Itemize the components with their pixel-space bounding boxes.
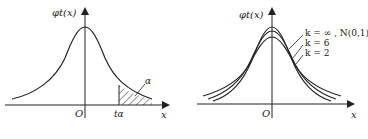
left-origin-label: O [75, 108, 83, 119]
diagram-canvas: φt(x) O x tα α φt(x) O x k = ∞ , N(0,1) … [0, 0, 368, 139]
leader-k-6 [293, 45, 303, 58]
right-x-axis-label: x [351, 109, 357, 120]
left-figure: φt(x) O x tα α [5, 7, 168, 120]
t-alpha-label: tα [114, 109, 124, 119]
left-x-axis-label: x [161, 109, 167, 120]
right-origin-label: O [262, 108, 270, 119]
label-k-2: k = 2 [305, 48, 329, 58]
left-y-axis-label: φt(x) [52, 7, 77, 18]
leader-k-2 [296, 55, 303, 64]
left-density-curve [12, 27, 152, 99]
label-k-infinity: k = ∞ , N(0,1) [305, 28, 368, 38]
label-k-6: k = 6 [305, 38, 330, 48]
leader-k-infinity [289, 35, 303, 49]
alpha-label: α [145, 76, 151, 86]
right-figure: φt(x) O x k = ∞ , N(0,1) k = 6 k = 2 [197, 9, 368, 120]
right-y-axis-label: φt(x) [239, 9, 264, 20]
